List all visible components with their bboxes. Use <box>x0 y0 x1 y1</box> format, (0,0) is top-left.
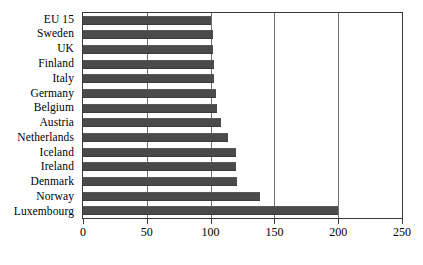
bar-series <box>83 13 402 218</box>
bar-row <box>83 57 402 72</box>
x-axis: 050100150200250 <box>82 219 403 249</box>
bar <box>83 30 213 39</box>
bar-row <box>83 174 402 189</box>
bar-row <box>83 28 402 43</box>
y-axis-label: Norway <box>0 189 78 204</box>
x-axis-tick <box>211 219 212 224</box>
bar-row <box>83 189 402 204</box>
bar <box>83 45 213 54</box>
bar-row <box>83 203 402 218</box>
y-axis-label: Luxembourg <box>0 204 78 219</box>
bar-row <box>83 130 402 145</box>
x-axis-tick <box>338 219 339 224</box>
bar-row <box>83 42 402 57</box>
bar <box>83 89 216 98</box>
bar-row <box>83 115 402 130</box>
x-axis-tick <box>274 219 275 224</box>
y-axis-label: Denmark <box>0 175 78 190</box>
bar <box>83 162 236 171</box>
bar-row <box>83 13 402 28</box>
y-axis-category-labels: EU 15 Sweden UK Finland Italy Germany Be… <box>0 12 78 219</box>
x-axis-tick <box>402 219 403 224</box>
y-axis-label: Ireland <box>0 160 78 175</box>
plot-area <box>82 12 403 219</box>
bar <box>83 192 260 201</box>
bar <box>83 206 338 215</box>
y-axis-label: UK <box>0 42 78 57</box>
bar <box>83 104 217 113</box>
y-axis-label: Sweden <box>0 27 78 42</box>
x-axis-tick <box>147 219 148 224</box>
y-axis-label: Netherlands <box>0 130 78 145</box>
x-axis-tick-label: 200 <box>329 226 347 238</box>
bar <box>83 177 237 186</box>
x-axis-tick-label: 0 <box>80 226 86 238</box>
y-axis-label: Belgium <box>0 101 78 116</box>
bar-row <box>83 72 402 87</box>
bar-row <box>83 145 402 160</box>
y-axis-label: EU 15 <box>0 12 78 27</box>
x-axis-tick-label: 250 <box>393 226 411 238</box>
x-axis-tick-label: 150 <box>265 226 283 238</box>
bar <box>83 16 211 25</box>
bar <box>83 74 214 83</box>
y-axis-label: Iceland <box>0 145 78 160</box>
bar <box>83 118 221 127</box>
x-axis-tick-label: 50 <box>141 226 153 238</box>
bar <box>83 133 228 142</box>
x-axis-tick <box>83 219 84 224</box>
x-axis-tick-label: 100 <box>202 226 220 238</box>
bar <box>83 148 236 157</box>
bar <box>83 60 214 69</box>
y-axis-label: Austria <box>0 115 78 130</box>
bar-row <box>83 86 402 101</box>
y-axis-label: Italy <box>0 71 78 86</box>
y-axis-label: Germany <box>0 86 78 101</box>
bar-row <box>83 101 402 116</box>
y-axis-label: Finland <box>0 56 78 71</box>
bar-row <box>83 159 402 174</box>
bar-chart: EU 15 Sweden UK Finland Italy Germany Be… <box>0 0 423 265</box>
